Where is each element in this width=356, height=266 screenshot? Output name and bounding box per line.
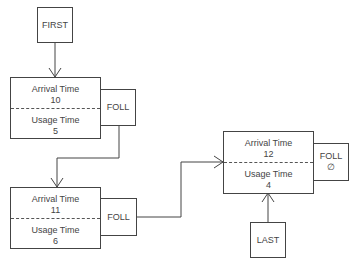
node-2-record: Arrival Time 11 Usage Time 6 [10, 187, 101, 249]
node-1-arrival-label: Arrival Time [11, 84, 100, 95]
node-3-record: Arrival Time 12 Usage Time 4 [223, 131, 314, 194]
node-3-divider [224, 162, 313, 163]
node-1-divider [11, 108, 100, 109]
node-2-divider [11, 218, 100, 219]
node-3-usage-value: 4 [224, 180, 313, 191]
node-1-record: Arrival Time 10 Usage Time 5 [10, 77, 101, 139]
node-2-foll-box: FOLL [100, 198, 137, 236]
node-2-usage-value: 6 [11, 236, 100, 247]
node-1-usage-label: Usage Time [11, 115, 100, 126]
node-2-arrival-label: Arrival Time [11, 194, 100, 205]
node-2-arrival-value: 11 [11, 205, 100, 216]
node-1-arrival-value: 10 [11, 95, 100, 106]
node-2-foll-label: FOLL [107, 212, 130, 223]
node-3-usage-label: Usage Time [224, 169, 313, 180]
node-3-arrival-label: Arrival Time [224, 138, 313, 149]
node-3-foll-box: FOLL ∅ [313, 143, 349, 181]
node-3-foll-label: FOLL [320, 151, 343, 162]
null-pointer-icon: ∅ [327, 162, 335, 173]
node-2-usage-label: Usage Time [11, 225, 100, 236]
first-pointer-label: FIRST [42, 20, 68, 31]
last-pointer-label: LAST [257, 235, 280, 246]
last-pointer-box: LAST [250, 222, 286, 258]
node-1-usage-value: 5 [11, 126, 100, 137]
node-1-foll-label: FOLL [107, 102, 130, 113]
node-3-arrival-value: 12 [224, 149, 313, 160]
first-pointer-box: FIRST [37, 7, 73, 43]
node-1-foll-box: FOLL [100, 89, 136, 126]
